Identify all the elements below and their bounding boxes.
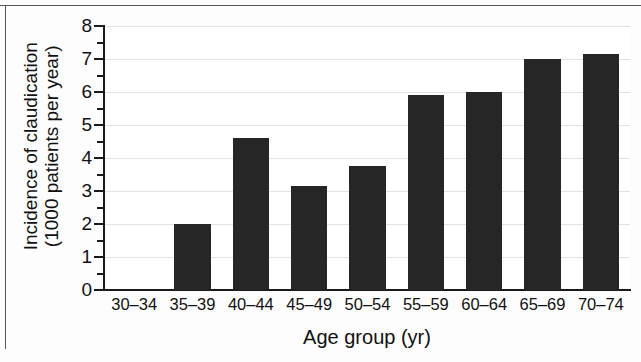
x-axis-tick-label: 65–69: [513, 296, 571, 313]
y-axis-major-tick: [94, 223, 103, 225]
y-axis-major-tick: [94, 157, 103, 159]
bars-group: [105, 26, 630, 290]
y-axis-major-tick: [94, 289, 103, 291]
x-axis-title: Age group (yr): [104, 326, 630, 349]
y-axis-title-line2: (1000 patients per year): [41, 1, 62, 291]
bar: [408, 95, 444, 290]
figure-top-rule: [0, 5, 641, 6]
y-axis-title: Incidence of claudication (1000 patients…: [20, 1, 63, 291]
y-axis-major-tick: [94, 58, 103, 60]
figure-container: 012345678 30–3435–3940–4445–4950–5455–59…: [0, 0, 641, 362]
figure-left-rule: [5, 5, 6, 349]
x-axis-tick-label: 40–44: [222, 296, 280, 313]
y-axis-major-tick: [94, 256, 103, 258]
bar: [349, 166, 385, 290]
x-axis-tick-label: 60–64: [455, 296, 513, 313]
y-axis-major-tick: [94, 91, 103, 93]
x-axis-tick-label: 45–49: [280, 296, 338, 313]
bar: [583, 54, 619, 290]
y-axis-major-tick: [94, 190, 103, 192]
bar: [466, 92, 502, 290]
x-axis-tick-label: 50–54: [338, 296, 396, 313]
bar: [524, 59, 560, 290]
bar: [174, 224, 210, 290]
bar: [291, 186, 327, 290]
y-axis-title-line1: Incidence of claudication: [20, 42, 41, 250]
x-axis-tick-label: 35–39: [163, 296, 221, 313]
x-axis-tick-label: 55–59: [397, 296, 455, 313]
x-axis-tick-label: 30–34: [105, 296, 163, 313]
x-axis-tick-label: 70–74: [572, 296, 630, 313]
bar: [233, 138, 269, 290]
y-axis-major-tick: [94, 25, 103, 27]
y-axis-major-tick: [94, 124, 103, 126]
